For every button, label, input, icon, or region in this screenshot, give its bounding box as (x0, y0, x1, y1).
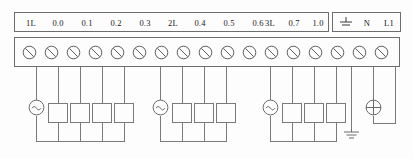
lamp-cross-icon (365, 99, 382, 116)
label-neutral: N (357, 13, 377, 33)
drop-wire-05 (204, 67, 205, 103)
drop-wire-03 (124, 67, 125, 103)
screw-terminal[interactable] (352, 45, 367, 60)
load-box-03 (114, 103, 134, 123)
supply-return-rail (373, 123, 396, 124)
load-box-05 (194, 103, 214, 123)
return-wire-02 (102, 123, 103, 141)
return-wire-06 (226, 123, 227, 141)
return-rail-1l (36, 141, 125, 142)
screw-terminal[interactable] (242, 45, 257, 60)
label-channel-05: 0.5 (216, 13, 242, 33)
diagram-canvas: 1L 0.0 0.1 0.2 0.3 2L 0.4 0.5 0.6 3L 0.7… (0, 0, 413, 159)
screw-terminal[interactable] (220, 45, 235, 60)
screw-terminal[interactable] (154, 45, 169, 60)
lamp-drop-wire (373, 67, 374, 100)
label-channel-03: 0.3 (132, 13, 158, 33)
label-channel-02: 0.2 (103, 13, 129, 33)
drop-wire-3l-source (270, 67, 271, 100)
return-wire-00 (58, 123, 59, 141)
screw-terminal[interactable] (198, 45, 213, 60)
label-group-1l: 1L (19, 13, 43, 33)
drop-wire-06 (226, 67, 227, 103)
screw-terminal[interactable] (374, 45, 389, 60)
screw-terminal[interactable] (66, 45, 81, 60)
drop-wire-10 (314, 67, 315, 103)
label-line-l1: L1 (379, 13, 399, 33)
drop-wire-2l-source (160, 67, 161, 100)
power-label-box: N L1 (332, 12, 401, 32)
drop-wire-00 (58, 67, 59, 103)
load-box-11 (326, 103, 346, 123)
return-wire-05 (204, 123, 205, 141)
drop-wire-11 (336, 67, 337, 103)
earth-ground-icon (339, 17, 353, 29)
drop-wire-02 (102, 67, 103, 103)
return-rail-3l (270, 141, 337, 142)
load-box-04 (172, 103, 192, 123)
screw-terminal[interactable] (308, 45, 323, 60)
label-group-2l: 2L (161, 13, 185, 33)
label-channel-01: 0.1 (74, 13, 100, 33)
load-box-01 (70, 103, 90, 123)
ac-source-icon (262, 99, 279, 116)
earth-drop-wire (351, 67, 352, 130)
supply-drop-wire (395, 67, 396, 123)
screw-terminal[interactable] (176, 45, 191, 60)
label-channel-07: 0.7 (281, 13, 307, 33)
load-box-06 (216, 103, 236, 123)
load-box-10 (304, 103, 324, 123)
ac-source-icon (152, 99, 169, 116)
return-rail-2l (160, 141, 227, 142)
return-wire-03 (124, 123, 125, 141)
drop-wire-07 (292, 67, 293, 103)
screw-terminal[interactable] (330, 45, 345, 60)
return-wire-11 (336, 123, 337, 141)
label-group-3l: 3L (258, 13, 282, 33)
screw-terminal[interactable] (22, 45, 37, 60)
label-channel-00: 0.0 (45, 13, 71, 33)
return-wire-1l-source (36, 116, 37, 141)
ac-source-icon (28, 99, 45, 116)
load-box-00 (48, 103, 68, 123)
load-box-07 (282, 103, 302, 123)
load-box-02 (92, 103, 112, 123)
screw-terminal[interactable] (110, 45, 125, 60)
screw-terminal[interactable] (264, 45, 279, 60)
screw-terminal[interactable] (88, 45, 103, 60)
return-wire-01 (80, 123, 81, 141)
return-wire-10 (314, 123, 315, 141)
screw-terminal[interactable] (132, 45, 147, 60)
earth-ground-icon (343, 129, 360, 142)
label-channel-04: 0.4 (187, 13, 213, 33)
return-wire-3l-source (270, 116, 271, 141)
return-wire-2l-source (160, 116, 161, 141)
screw-terminal[interactable] (286, 45, 301, 60)
return-wire-07 (292, 123, 293, 141)
drop-wire-01 (80, 67, 81, 103)
channel-label-box: 1L 0.0 0.1 0.2 0.3 2L 0.4 0.5 0.6 3L 0.7… (14, 12, 329, 32)
drop-wire-04 (182, 67, 183, 103)
drop-wire-1l-source (36, 67, 37, 100)
screw-terminal[interactable] (44, 45, 59, 60)
lamp-return-wire (373, 116, 374, 123)
return-wire-04 (182, 123, 183, 141)
